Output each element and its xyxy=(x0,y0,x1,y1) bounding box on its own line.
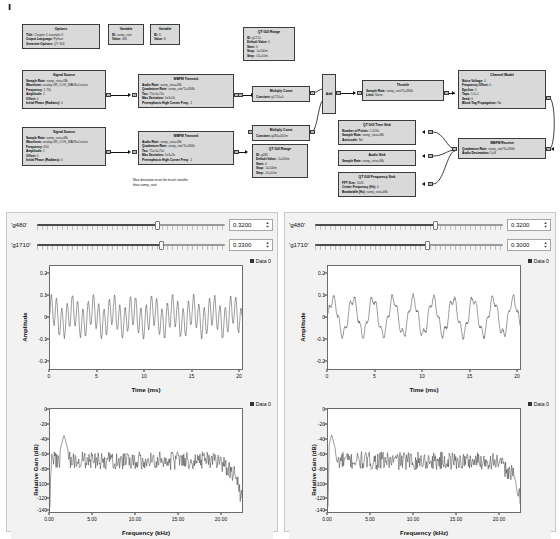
time-plot-right[interactable]: Data 0 Amplitude 0.2 0.1 0 -0.1 -0.2 0 5… xyxy=(289,257,551,396)
block-channel-model[interactable]: Channel Model Noise Voltage: 0 Frequency… xyxy=(458,70,546,109)
slider-handle-g480[interactable] xyxy=(433,221,438,230)
block-variable-d[interactable]: Variable ID: D Value: 8 xyxy=(150,24,180,45)
xtick: 20.00 xyxy=(215,516,228,522)
time-plot-ylabel: Amplitude xyxy=(300,312,306,341)
slider-handle-g1710[interactable] xyxy=(159,241,164,250)
gnuradio-flowgraph-canvas[interactable]: Options Title: Chapter 2 example 3 Outpu… xyxy=(0,10,560,210)
freq-plot-left[interactable]: Data 0 Relative Gain (dB) 0 -20 -40 -60 … xyxy=(11,400,273,539)
port-wbfm-transmit-1-in[interactable] xyxy=(132,93,137,97)
slider-track-g480[interactable] xyxy=(315,219,503,231)
block-qt-gui-range-g1710[interactable]: QT GUI Range ID: g1710 Default Value: 0 … xyxy=(243,27,295,61)
spinner-down-icon[interactable]: ▼ xyxy=(544,225,548,229)
xtick: 15 xyxy=(189,373,195,379)
block-throttle[interactable]: Throttle Sample Rate: samp_rate*D=384k L… xyxy=(362,80,444,101)
block-title: WBFM Transmit xyxy=(142,77,230,82)
xtick: 10 xyxy=(419,373,425,379)
spinner-down-icon[interactable]: ▼ xyxy=(544,245,548,249)
block-qt-gui-range-g480[interactable]: QT GUI Range ID: g480 Default Value: .5=… xyxy=(252,144,308,178)
xtick: 20.00 xyxy=(493,516,506,522)
slider-value-g480[interactable]: 0.3200 ▲▼ xyxy=(507,219,551,231)
spinner-down-icon[interactable]: ▼ xyxy=(266,225,270,229)
port-wbfm-receive-out[interactable] xyxy=(452,147,457,151)
slider-value-text: 0.3200 xyxy=(511,222,529,228)
port-multiply-const-1710-out[interactable] xyxy=(310,91,315,95)
spinner-arrows[interactable]: ▲▼ xyxy=(264,220,271,230)
qt-gui-window-left[interactable]: 'g480' 0.3200 ▲▼ 'g1710' 0.3300 ▲▼ Data … xyxy=(6,212,278,532)
port-channel-model-out[interactable] xyxy=(546,96,551,100)
port-qt-gui-time-sink-in[interactable] xyxy=(428,130,433,134)
time-plot-left[interactable]: Data 0 Amplitude 0.2 0.1 0 -0.1 -0.2 0 5… xyxy=(11,257,273,396)
legend-label: Data 0 xyxy=(256,401,271,407)
slider-row-g1710[interactable]: 'g1710' 0.3300 ▲▼ xyxy=(11,236,273,253)
legend-swatch-icon xyxy=(250,259,254,263)
freq-plot-trace xyxy=(50,409,242,512)
block-title: Signal Source xyxy=(26,73,102,78)
port-audio-sink-in[interactable] xyxy=(428,154,433,158)
slider-value-g480[interactable]: 0.3200 ▲▼ xyxy=(229,219,273,231)
spinner-arrows[interactable]: ▲▼ xyxy=(264,240,271,250)
legend-swatch-icon xyxy=(250,402,254,406)
slider-label-g1710: 'g1710' xyxy=(289,241,315,248)
xtick: 10.00 xyxy=(129,516,142,522)
slider-handle-g1710[interactable] xyxy=(425,241,430,250)
block-multiply-const-1710[interactable]: Multiply Const Constant: g1710=0 xyxy=(252,86,310,102)
slider-value-text: 0.3200 xyxy=(233,222,251,228)
block-row: Sample Rate: samp_rate=48k xyxy=(342,159,412,163)
xtick: 5 xyxy=(373,373,376,379)
block-add[interactable]: Add xyxy=(322,74,336,114)
slider-row-g1710[interactable]: 'g1710' 0.3000 ▲▼ xyxy=(289,236,551,253)
qt-gui-window-right[interactable]: 'g480' 0.3200 ▲▼ 'g1710' 0.3000 ▲▼ Data … xyxy=(284,212,556,532)
port-multiply-const-1710-in[interactable] xyxy=(238,93,243,97)
slider-value-g1710[interactable]: 0.3300 ▲▼ xyxy=(229,239,273,251)
block-signal-source-1710[interactable]: Signal Source Sample Rate: samp_rate=48k… xyxy=(22,70,106,109)
wire xyxy=(111,152,128,153)
spinner-arrows[interactable]: ▲▼ xyxy=(542,220,549,230)
block-title: Options xyxy=(26,27,96,32)
block-variable-samp-rate[interactable]: Variable ID: samp_rate Value: 48k xyxy=(108,24,144,45)
xtick: 15 xyxy=(467,373,473,379)
time-plot-frame xyxy=(49,265,243,370)
port-multiply-const-480-out[interactable] xyxy=(310,130,315,134)
block-wbfm-transmit-2[interactable]: WBFM Transmit Audio Rate: samp_rate=48k … xyxy=(138,131,234,165)
slider-row-g480[interactable]: 'g480' 0.3200 ▲▼ xyxy=(11,216,273,233)
block-row: Autoscale: No xyxy=(342,138,412,142)
block-qt-gui-frequency-sink[interactable]: QT GUI Frequency Sink FFT Size: 1024 Cen… xyxy=(338,172,416,197)
xtick: 0 xyxy=(48,373,51,379)
spinner-down-icon[interactable]: ▼ xyxy=(266,245,270,249)
slider-track-g480[interactable] xyxy=(37,219,225,231)
slider-row-g480[interactable]: 'g480' 0.3200 ▲▼ xyxy=(289,216,551,233)
port-multiply-const-480-in[interactable] xyxy=(248,130,253,134)
block-wbfm-transmit-1[interactable]: WBFM Transmit Audio Rate: samp_rate=48k … xyxy=(138,74,234,108)
block-row: Preemphasis High Corner Freq: -1 xyxy=(142,101,230,105)
slider-handle-g480[interactable] xyxy=(155,221,160,230)
block-signal-source-450[interactable]: Signal Source Sample Rate: samp_rate=48k… xyxy=(22,127,106,166)
block-multiply-const-480[interactable]: Multiply Const Constant: g480=400m xyxy=(252,125,310,141)
block-wbfm-receive[interactable]: WBFM Receive Quadrature Rate: samp_rate*… xyxy=(458,138,546,159)
xtick: 15.00 xyxy=(450,516,463,522)
block-options[interactable]: Options Title: Chapter 2 example 3 Outpu… xyxy=(22,24,100,49)
port-qt-gui-frequency-sink-in[interactable] xyxy=(428,182,433,186)
xtick: 0 xyxy=(326,373,329,379)
block-title: Audio Sink xyxy=(342,153,412,158)
legend-swatch-icon xyxy=(528,402,532,406)
block-audio-sink[interactable]: Audio Sink Sample Rate: samp_rate=48k xyxy=(338,150,416,166)
xtick: 20 xyxy=(514,373,520,379)
wire xyxy=(341,93,353,94)
block-qt-gui-time-sink[interactable]: QT GUI Time Sink Number of Points: 1.024… xyxy=(338,120,416,145)
port-wbfm-transmit-2-in[interactable] xyxy=(132,150,137,154)
freq-plot-frame xyxy=(327,408,521,513)
time-plot-trace xyxy=(50,266,242,369)
slider-track-g1710[interactable] xyxy=(37,239,225,251)
block-row: Constant: g480=400m xyxy=(256,134,306,138)
xtick: 15.00 xyxy=(172,516,185,522)
slider-value-g1710[interactable]: 0.3000 ▲▼ xyxy=(507,239,551,251)
slider-ticks xyxy=(315,226,503,230)
legend-label: Data 0 xyxy=(534,401,549,407)
slider-track-g1710[interactable] xyxy=(315,239,503,251)
block-title: Signal Source xyxy=(26,130,102,135)
time-plot-xlabel: Time (ms) xyxy=(327,386,521,393)
block-row: Preemphasis High Corner Freq: -1 xyxy=(142,158,230,162)
spinner-arrows[interactable]: ▲▼ xyxy=(542,240,549,250)
freq-plot-right[interactable]: Data 0 Relative Gain (dB) 0 -20 -40 -60 … xyxy=(289,400,551,539)
block-title: Variable xyxy=(154,27,176,32)
